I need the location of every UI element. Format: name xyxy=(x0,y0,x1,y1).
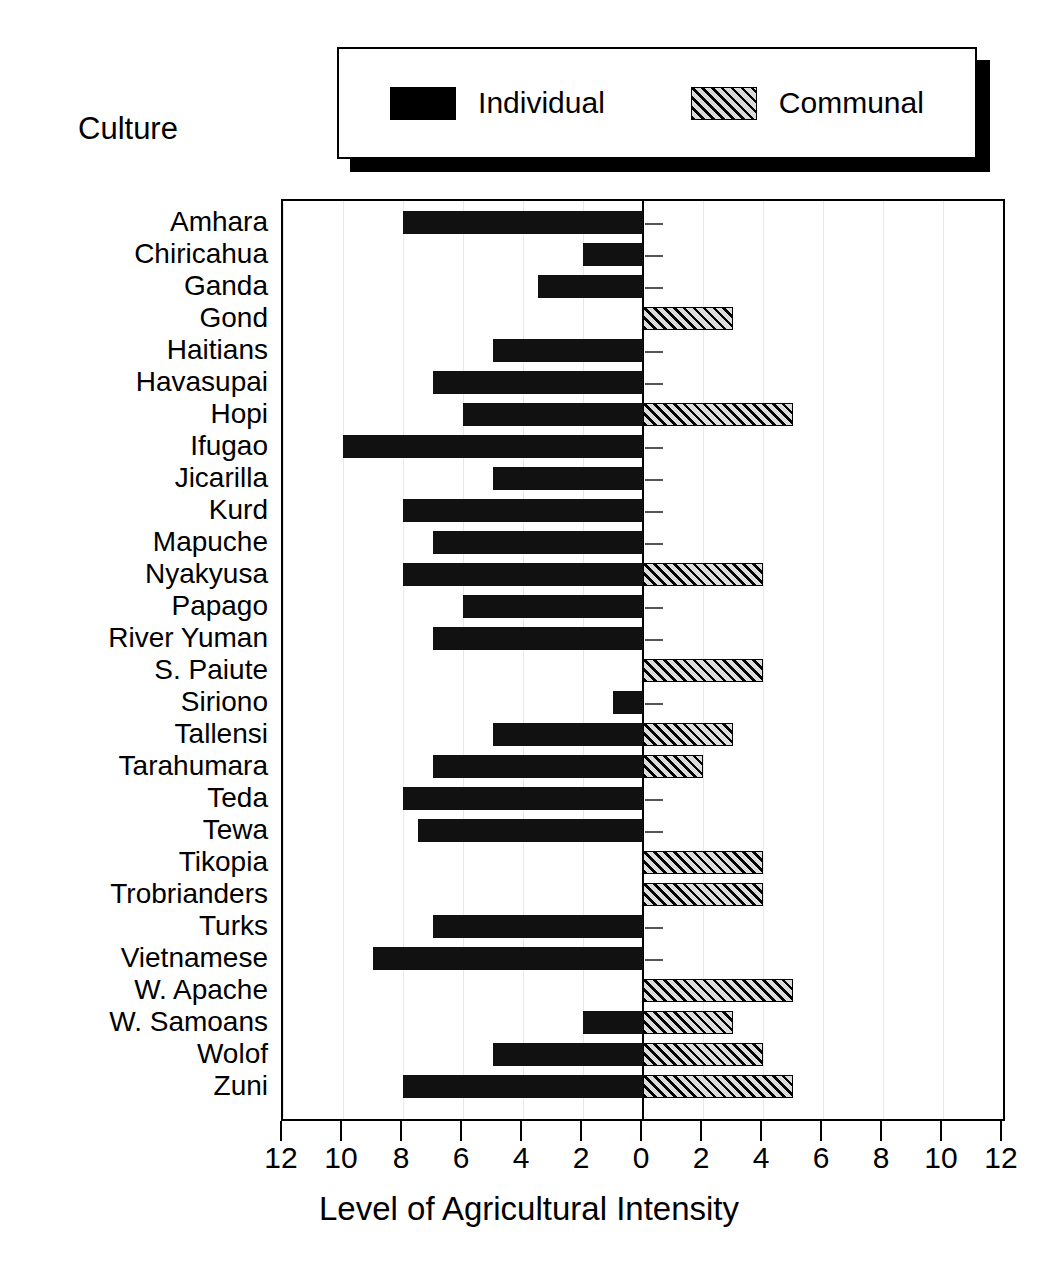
bar-row xyxy=(283,880,1003,912)
bar-individual xyxy=(538,275,643,298)
category-tick xyxy=(645,351,663,353)
bar-communal xyxy=(643,723,733,746)
bar-individual xyxy=(583,1011,643,1034)
category-tick xyxy=(645,959,663,961)
bar-individual xyxy=(433,755,643,778)
bar-individual xyxy=(433,371,643,394)
category-label: Teda xyxy=(0,782,268,814)
category-label: Kurd xyxy=(0,494,268,526)
bar-row xyxy=(283,272,1003,304)
category-tick xyxy=(645,287,663,289)
category-label: Zuni xyxy=(0,1070,268,1102)
value-axis-tick-label: 8 xyxy=(873,1143,890,1173)
value-axis-tick xyxy=(880,1121,882,1141)
category-tick xyxy=(645,607,663,609)
value-axis-tick-label: 12 xyxy=(264,1143,297,1173)
value-axis-tick-label: 10 xyxy=(324,1143,357,1173)
category-tick xyxy=(645,383,663,385)
bar-row xyxy=(283,432,1003,464)
value-axis-tick xyxy=(340,1121,342,1141)
category-label: Tarahumara xyxy=(0,750,268,782)
legend-entry-communal: Communal xyxy=(691,87,924,120)
bar-individual xyxy=(463,595,643,618)
plot-area xyxy=(281,199,1005,1121)
category-tick xyxy=(645,799,663,801)
bar-individual xyxy=(433,627,643,650)
category-label: Chiricahua xyxy=(0,238,268,270)
bar-individual xyxy=(433,915,643,938)
bar-communal xyxy=(643,659,763,682)
bar-individual xyxy=(493,1043,643,1066)
bar-row xyxy=(283,496,1003,528)
bar-individual xyxy=(403,787,643,810)
bar-row xyxy=(283,336,1003,368)
bar-individual xyxy=(403,211,643,234)
bar-individual xyxy=(373,947,643,970)
bar-row xyxy=(283,208,1003,240)
bar-individual xyxy=(403,499,643,522)
value-axis-tick-label: 6 xyxy=(813,1143,830,1173)
category-label: W. Samoans xyxy=(0,1006,268,1038)
category-label: Vietnamese xyxy=(0,942,268,974)
bar-row xyxy=(283,752,1003,784)
bar-row xyxy=(283,688,1003,720)
bar-row xyxy=(283,368,1003,400)
bar-individual xyxy=(463,403,643,426)
category-label: Amhara xyxy=(0,206,268,238)
category-axis-title: Culture xyxy=(78,113,178,144)
bar-individual xyxy=(493,467,643,490)
category-tick xyxy=(645,255,663,257)
category-label: Haitians xyxy=(0,334,268,366)
bar-row xyxy=(283,656,1003,688)
value-axis-tick-label: 6 xyxy=(453,1143,470,1173)
bar-communal xyxy=(643,1075,793,1098)
value-axis-tick xyxy=(760,1121,762,1141)
bar-row xyxy=(283,592,1003,624)
bar-communal xyxy=(643,1043,763,1066)
bar-row xyxy=(283,848,1003,880)
bar-rows xyxy=(283,201,1003,1119)
category-tick xyxy=(645,927,663,929)
bar-individual xyxy=(493,723,643,746)
category-label: Mapuche xyxy=(0,526,268,558)
value-axis: 12108642024681012 xyxy=(281,1121,1005,1151)
bar-row xyxy=(283,912,1003,944)
category-label: Hopi xyxy=(0,398,268,430)
bar-row xyxy=(283,240,1003,272)
category-label: Ifugao xyxy=(0,430,268,462)
bar-communal xyxy=(643,403,793,426)
bar-row xyxy=(283,528,1003,560)
bar-row xyxy=(283,720,1003,752)
category-label: Havasupai xyxy=(0,366,268,398)
category-label: River Yuman xyxy=(0,622,268,654)
category-label: Siriono xyxy=(0,686,268,718)
bar-communal xyxy=(643,979,793,1002)
category-label: W. Apache xyxy=(0,974,268,1006)
category-label: Gond xyxy=(0,302,268,334)
bar-communal xyxy=(643,851,763,874)
value-axis-tick xyxy=(700,1121,702,1141)
bar-row xyxy=(283,400,1003,432)
value-axis-tick-label: 10 xyxy=(924,1143,957,1173)
legend-label-individual: Individual xyxy=(478,88,605,118)
value-axis-tick xyxy=(940,1121,942,1141)
bar-individual xyxy=(583,243,643,266)
bar-communal xyxy=(643,755,703,778)
bar-communal xyxy=(643,1011,733,1034)
category-tick xyxy=(645,479,663,481)
bar-communal xyxy=(643,307,733,330)
legend-swatch-individual-icon xyxy=(390,87,456,120)
category-label: Nyakyusa xyxy=(0,558,268,590)
bar-row xyxy=(283,976,1003,1008)
value-axis-tick-label: 8 xyxy=(393,1143,410,1173)
chart-legend: Individual Communal xyxy=(337,47,977,159)
value-axis-tick-label: 4 xyxy=(513,1143,530,1173)
value-axis-tick-label: 4 xyxy=(753,1143,770,1173)
value-axis-tick-label: 0 xyxy=(633,1143,650,1173)
value-axis-tick xyxy=(400,1121,402,1141)
bar-individual xyxy=(433,531,643,554)
value-axis-tick xyxy=(460,1121,462,1141)
bar-row xyxy=(283,1008,1003,1040)
category-tick xyxy=(645,511,663,513)
category-tick xyxy=(645,543,663,545)
